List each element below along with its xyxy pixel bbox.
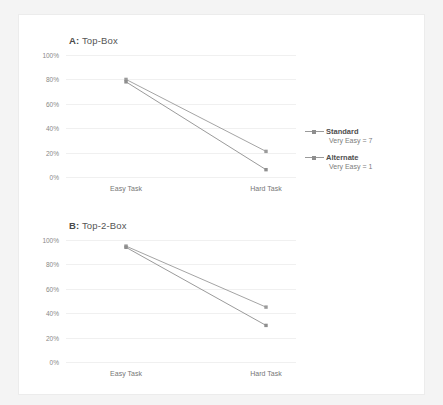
x-axis-tick-label: Hard Task	[250, 185, 281, 192]
x-axis-tick-label: Easy Task	[110, 185, 142, 192]
y-axis-tick-label: 60%	[46, 100, 59, 107]
y-axis-tick-label: 20%	[46, 334, 59, 341]
plot-area-a: 100%80%60%40%20%0%Easy TaskHard Task	[66, 55, 296, 177]
legend-item: Alternate Very Easy = 1	[305, 153, 420, 170]
x-axis-tick-label: Easy Task	[110, 370, 142, 377]
y-axis-tick-label: 100%	[42, 52, 59, 59]
data-point-marker	[264, 324, 267, 327]
panel-a-title-text: Top-Box	[82, 35, 118, 46]
panel-b-title: B: Top-2-Box	[69, 220, 127, 231]
series-line	[126, 246, 266, 307]
page-background: A: Top-Box 100%80%60%40%20%0%Easy TaskHa…	[0, 0, 443, 405]
y-axis-tick-label: 0%	[50, 174, 59, 181]
y-axis-tick-label: 100%	[42, 237, 59, 244]
x-axis-tick-label: Hard Task	[250, 370, 281, 377]
y-axis-tick-label: 40%	[46, 310, 59, 317]
y-axis-tick-label: 40%	[46, 125, 59, 132]
panel-a-title: A: Top-Box	[69, 35, 118, 46]
y-gridline: 0%	[66, 362, 296, 363]
legend-series-name: Alternate	[326, 153, 359, 162]
series-layer	[66, 240, 296, 362]
legend-series-note: Very Easy = 7	[329, 137, 420, 144]
data-point-marker	[264, 168, 267, 171]
legend-series-note: Very Easy = 1	[329, 163, 420, 170]
y-axis-tick-label: 0%	[50, 359, 59, 366]
series-line	[126, 247, 266, 325]
y-axis-tick-label: 80%	[46, 261, 59, 268]
y-axis-tick-label: 20%	[46, 149, 59, 156]
legend-marker-icon	[305, 154, 324, 161]
y-axis-tick-label: 60%	[46, 285, 59, 292]
data-point-marker	[264, 150, 267, 153]
chart-panel-a: A: Top-Box 100%80%60%40%20%0%Easy TaskHa…	[19, 21, 426, 211]
legend-marker-icon	[305, 128, 324, 135]
panel-b-tag: B:	[69, 220, 79, 231]
y-axis-tick-label: 80%	[46, 76, 59, 83]
plot-area-b: 100%80%60%40%20%0%Easy TaskHard Task	[66, 240, 296, 362]
panel-a-tag: A:	[69, 35, 79, 46]
legend-item: Standard Very Easy = 7	[305, 127, 420, 144]
data-point-marker	[124, 246, 127, 249]
series-layer	[66, 55, 296, 177]
chart-panel-b: B: Top-2-Box 100%80%60%40%20%0%Easy Task…	[19, 206, 426, 396]
data-point-marker	[124, 80, 127, 83]
series-line	[126, 82, 266, 170]
panel-b-title-text: Top-2-Box	[82, 220, 127, 231]
legend-a: Standard Very Easy = 7 Alternate Very Ea…	[305, 127, 420, 179]
y-gridline: 0%	[66, 177, 296, 178]
data-point-marker	[264, 305, 267, 308]
series-line	[126, 79, 266, 151]
legend-series-name: Standard	[326, 127, 359, 136]
figure-card: A: Top-Box 100%80%60%40%20%0%Easy TaskHa…	[18, 14, 425, 395]
